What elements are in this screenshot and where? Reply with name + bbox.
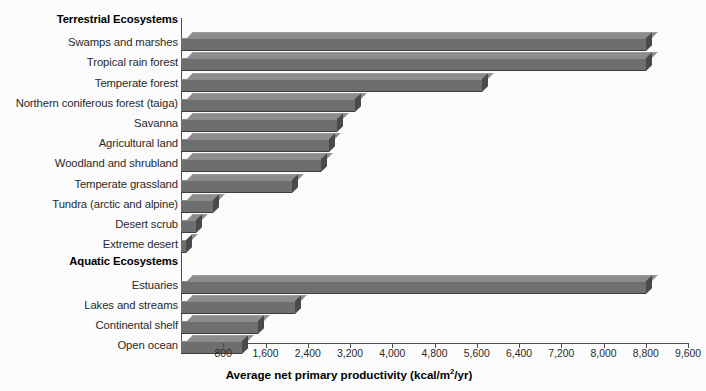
x-tick-label: 2,400	[286, 348, 330, 359]
category-label: Open ocean	[0, 339, 178, 351]
bar	[181, 174, 299, 194]
bar-front-face	[181, 321, 258, 334]
bar-front-face	[181, 38, 646, 51]
x-axis-title: Average net primary productivity (kcal/m…	[0, 368, 698, 381]
bar	[181, 32, 653, 52]
bar-side-face	[186, 234, 192, 253]
bar	[181, 93, 362, 113]
category-label: Tropical rain forest	[0, 56, 178, 68]
bar	[181, 153, 328, 173]
bar-front-face	[181, 159, 321, 172]
x-tick-label: 5,600	[455, 348, 499, 359]
bar	[181, 234, 193, 254]
bar	[181, 133, 336, 153]
category-label: Estuaries	[0, 279, 178, 291]
category-label: Continental shelf	[0, 319, 178, 331]
x-tick-label: 3,200	[328, 348, 372, 359]
group-heading-aquatic: Aquatic Ecosystems	[0, 255, 178, 267]
category-label: Temperate grassland	[0, 178, 178, 190]
bar	[181, 73, 489, 93]
bar	[181, 194, 220, 214]
category-label: Temperate forest	[0, 77, 178, 89]
bar-front-face	[181, 220, 196, 233]
x-axis-title-main: Average net primary productivity (kcal/m	[226, 368, 450, 381]
x-tick-label: 7,200	[539, 348, 583, 359]
bar	[181, 315, 265, 335]
x-tick-label: 4,800	[413, 348, 457, 359]
x-tick-label: 800	[201, 348, 245, 359]
bar	[181, 52, 653, 72]
bar	[181, 113, 344, 133]
bar-front-face	[181, 240, 186, 253]
bar-front-face	[181, 200, 213, 213]
x-tick-label: 4,000	[370, 348, 414, 359]
x-tick-label: 9,600	[666, 348, 706, 359]
bar	[181, 214, 203, 234]
category-label: Agricultural land	[0, 137, 178, 149]
bar-front-face	[181, 58, 646, 71]
group-heading-terrestrial: Terrestrial Ecosystems	[0, 13, 178, 25]
category-label: Tundra (arctic and alpine)	[0, 198, 178, 210]
x-tick-label: 1,600	[244, 348, 288, 359]
bar-front-face	[181, 79, 482, 92]
category-label: Savanna	[0, 117, 178, 129]
bar	[181, 275, 653, 295]
bar-front-face	[181, 99, 355, 112]
x-tick-label: 8,000	[582, 348, 626, 359]
bar	[181, 295, 302, 315]
category-label: Desert scrub	[0, 218, 178, 230]
category-label: Woodland and shrubland	[0, 157, 178, 169]
category-label: Extreme desert	[0, 238, 178, 250]
plot-area: 8001,6002,4003,2004,0004,8005,6006,4007,…	[181, 0, 698, 391]
category-label: Northern coniferous forest (taiga)	[0, 97, 178, 109]
category-label: Lakes and streams	[0, 299, 178, 311]
x-tick-label: 8,800	[624, 348, 668, 359]
bar-front-face	[181, 281, 646, 294]
bar-front-face	[181, 139, 329, 152]
bar-front-face	[181, 301, 295, 314]
x-tick-label: 6,400	[497, 348, 541, 359]
bar-front-face	[181, 180, 292, 193]
x-axis-title-tail: /yr)	[454, 368, 472, 381]
bar-side-face	[321, 154, 327, 173]
bar-front-face	[181, 119, 337, 132]
category-label: Swamps and marshes	[0, 36, 178, 48]
